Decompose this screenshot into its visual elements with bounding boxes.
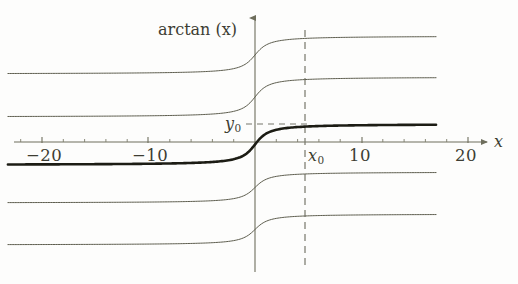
x-tick-label-minus-10: −10 bbox=[132, 148, 168, 165]
arctan-curve-family bbox=[8, 37, 436, 245]
x-tick-label-20: 20 bbox=[455, 148, 477, 165]
x0-subscript: 0 bbox=[318, 154, 325, 166]
x-axis-minor-ticks bbox=[21, 139, 447, 142]
arctan-figure: arctan (x) x −20 −10 10 20 x0 y0 bbox=[0, 0, 518, 284]
plot-canvas bbox=[0, 0, 518, 284]
arctan-curve bbox=[8, 173, 436, 203]
y0-subscript: 0 bbox=[235, 122, 242, 134]
arctan-curve bbox=[8, 215, 436, 245]
x-tick-label-minus-20: −20 bbox=[26, 148, 62, 165]
arctan-curve bbox=[8, 37, 436, 74]
x0-marker-label: x0 bbox=[308, 148, 324, 164]
x-axis-label: x bbox=[494, 134, 503, 150]
y0-base: y bbox=[225, 114, 234, 133]
plot-title: arctan (x) bbox=[158, 22, 237, 38]
x0-base: x bbox=[308, 146, 317, 165]
guide-lines bbox=[246, 30, 312, 266]
arctan-curve bbox=[8, 78, 436, 117]
y0-marker-label: y0 bbox=[225, 116, 241, 132]
x-tick-label-10: 10 bbox=[349, 148, 371, 165]
arctan-curve-highlighted bbox=[8, 125, 436, 165]
